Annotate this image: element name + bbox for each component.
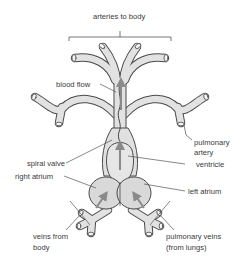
label-right-atrium: right atrium bbox=[15, 171, 53, 182]
label-veins-from-body-line1: veins from bbox=[33, 231, 68, 242]
label-pulmonary-veins-line1: pulmonary veins bbox=[166, 231, 221, 242]
arteries-bracket bbox=[69, 31, 171, 41]
label-veins-from-body-line2: body bbox=[33, 242, 49, 253]
label-left-atrium: left atrium bbox=[188, 186, 221, 197]
label-spiral-valve: spiral valve bbox=[27, 158, 65, 169]
label-blood-flow: blood flow bbox=[56, 79, 90, 90]
label-arteries-to-body: arteries to body bbox=[93, 11, 145, 22]
label-pulmonary-artery-line2: artery bbox=[194, 147, 213, 158]
label-pulmonary-veins-line2: (from lungs) bbox=[166, 242, 207, 253]
heart-illustration bbox=[0, 0, 233, 268]
label-ventricle: ventricle bbox=[196, 159, 224, 170]
heart-diagram: arteries to body blood flow spiral valve… bbox=[0, 0, 233, 268]
